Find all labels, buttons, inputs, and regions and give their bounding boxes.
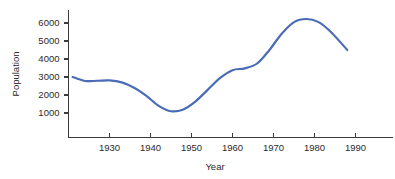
y-tick-label-5000: 5000 (38, 35, 59, 46)
population-series-line (73, 19, 348, 111)
y-tick-group: 100020003000400050006000 (38, 17, 68, 118)
chart-canvas: 100020003000400050006000 193019401950196… (0, 0, 395, 179)
y-tick-label-2000: 2000 (38, 89, 59, 100)
y-tick-label-3000: 3000 (38, 71, 59, 82)
x-tick-label-1970: 1970 (263, 142, 284, 153)
x-tick-label-1980: 1980 (304, 142, 325, 153)
population-line-chart: 100020003000400050006000 193019401950196… (0, 0, 395, 179)
y-tick-label-1000: 1000 (38, 107, 59, 118)
y-axis-group: 100020003000400050006000 (38, 10, 68, 138)
x-axis-group: 1930194019501960197019801990 (69, 133, 394, 153)
x-tick-label-1940: 1940 (140, 142, 161, 153)
x-tick-label-1930: 1930 (99, 142, 120, 153)
y-axis-title: Population (10, 52, 21, 97)
x-tick-label-1990: 1990 (345, 142, 366, 153)
x-tick-label-1960: 1960 (222, 142, 243, 153)
y-tick-label-6000: 6000 (38, 17, 59, 28)
x-tick-group: 1930194019501960197019801990 (99, 133, 366, 153)
y-tick-label-4000: 4000 (38, 53, 59, 64)
x-axis-title: Year (205, 161, 224, 172)
x-tick-label-1950: 1950 (181, 142, 202, 153)
